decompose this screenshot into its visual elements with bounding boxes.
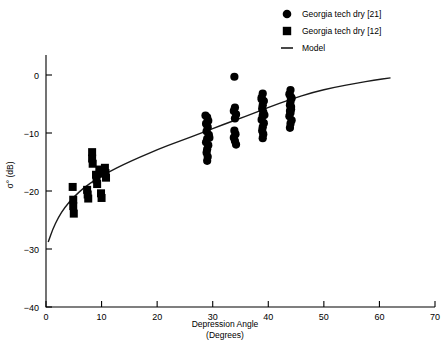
y-tick-label: 0 bbox=[34, 71, 39, 81]
chart-legend: Georgia tech dry [21]Georgia tech dry [1… bbox=[281, 9, 381, 53]
y-tick-label: −30 bbox=[24, 245, 39, 255]
data-point-circle bbox=[286, 92, 294, 100]
data-point-circle bbox=[205, 134, 213, 142]
data-point-square bbox=[98, 194, 106, 202]
x-tick-label: 0 bbox=[43, 312, 48, 322]
x-tick-label: 10 bbox=[97, 312, 107, 322]
model-curve bbox=[48, 78, 390, 242]
x-tick-label: 40 bbox=[263, 312, 273, 322]
data-point-circle bbox=[258, 95, 266, 103]
x-tick-label: 70 bbox=[430, 312, 440, 322]
y-tick-label: −20 bbox=[24, 187, 39, 197]
series-markers-georgia-tech-dry-21 bbox=[201, 73, 295, 165]
legend-marker-circle-icon bbox=[283, 10, 292, 19]
x-tick-label: 60 bbox=[374, 312, 384, 322]
y-axis-tick-labels: 0−10−20−30−40 bbox=[24, 71, 39, 313]
data-point-circle bbox=[230, 73, 238, 81]
data-point-circle bbox=[201, 112, 209, 120]
data-point-circle bbox=[231, 114, 239, 122]
data-point-circle bbox=[232, 141, 240, 149]
series-markers-georgia-tech-dry-12 bbox=[69, 148, 110, 217]
legend-marker-square-icon bbox=[283, 27, 291, 35]
data-point-square bbox=[70, 210, 78, 218]
data-point-square bbox=[93, 180, 101, 188]
scatter-chart: 010203040506070 0−10−20−30−40 Depression… bbox=[0, 0, 446, 348]
x-tick-label: 20 bbox=[152, 312, 162, 322]
data-point-circle bbox=[259, 134, 267, 142]
y-tick-label: −10 bbox=[24, 129, 39, 139]
y-tick-label: −40 bbox=[24, 303, 39, 313]
chart-figure: 010203040506070 0−10−20−30−40 Depression… bbox=[0, 0, 446, 348]
x-axis-units-label: (Degrees) bbox=[206, 330, 244, 340]
data-point-circle bbox=[203, 157, 211, 165]
legend-item-label: Georgia tech dry [21] bbox=[302, 9, 381, 19]
x-axis-title: Depression Angle bbox=[192, 319, 259, 329]
x-tick-label: 50 bbox=[319, 312, 329, 322]
data-point-circle bbox=[286, 107, 294, 115]
data-point-square bbox=[69, 183, 77, 191]
data-point-square bbox=[84, 195, 92, 203]
legend-item-label: Model bbox=[302, 43, 325, 53]
data-point-square bbox=[102, 174, 110, 182]
data-point-circle bbox=[286, 124, 294, 132]
data-point-circle bbox=[260, 111, 268, 119]
y-axis-title: σ° (dB) bbox=[5, 161, 15, 188]
legend-item-label: Georgia tech dry [12] bbox=[302, 26, 381, 36]
data-point-square bbox=[69, 202, 77, 210]
